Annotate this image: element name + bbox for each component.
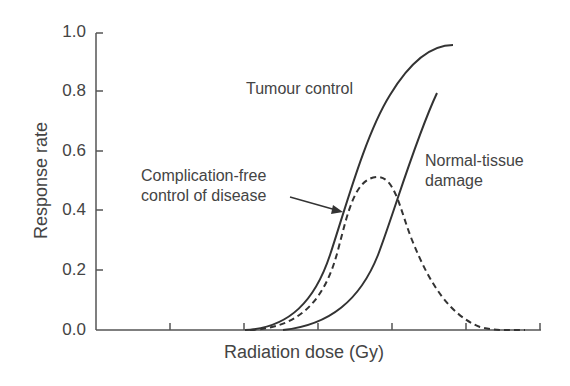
complication-free-curve (250, 177, 525, 330)
normal-tissue-label-line2: damage (425, 171, 483, 190)
normal-tissue-curve (283, 93, 437, 330)
normal-tissue-label-line1: Normal-tissue (425, 151, 524, 170)
y-tick-1.0: 1.0 (46, 22, 86, 42)
x-axis-label: Radiation dose (Gy) (224, 342, 384, 363)
y-axis-label: Response rate (31, 116, 52, 246)
y-tick-0.6: 0.6 (46, 141, 86, 161)
annotation-arrow (290, 197, 343, 214)
complication-free-label-line1: Complication-free (141, 166, 266, 185)
y-tick-0.0: 0.0 (46, 320, 86, 340)
y-tick-0.2: 0.2 (46, 260, 86, 280)
y-tick-0.4: 0.4 (46, 200, 86, 220)
y-tick-0.8: 0.8 (46, 81, 86, 101)
complication-free-label-line2: control of disease (141, 186, 266, 205)
tumour-control-label: Tumour control (246, 79, 353, 98)
